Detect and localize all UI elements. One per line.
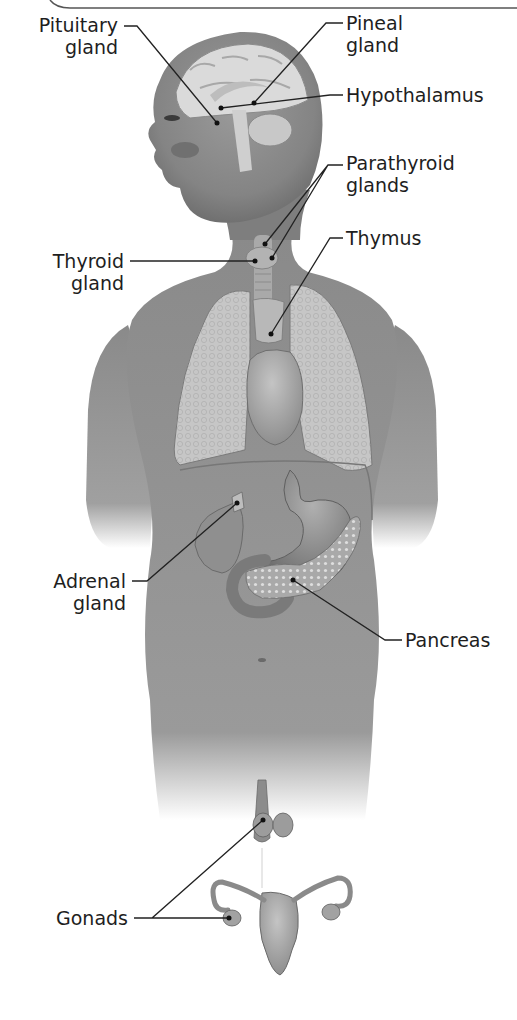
label-line: Hypothalamus	[346, 84, 484, 106]
testis-left	[253, 813, 273, 837]
cerebellum	[248, 114, 292, 146]
frame-border	[50, 0, 517, 8]
label-pituitary-gland: Pituitary gland	[38, 14, 118, 58]
label-line: gland	[40, 272, 124, 294]
endocrine-system-figure: Pituitary gland Pineal gland Hypothalamu…	[0, 0, 517, 1020]
testis-right	[273, 813, 293, 837]
label-thymus: Thymus	[346, 227, 421, 249]
uterus-ovaries	[213, 878, 350, 975]
fallopian-tube-right	[294, 878, 350, 906]
label-adrenal-gland: Adrenal gland	[40, 570, 126, 614]
label-line: Pituitary	[38, 14, 118, 36]
label-line: Pancreas	[405, 629, 490, 651]
uterus	[260, 892, 299, 975]
label-gonads: Gonads	[40, 907, 128, 929]
label-pancreas: Pancreas	[405, 629, 490, 651]
label-line: gland	[346, 34, 403, 56]
label-line: Parathyroid	[346, 152, 455, 174]
label-line: glands	[346, 174, 455, 196]
label-line: Gonads	[40, 907, 128, 929]
fallopian-tube-left	[213, 882, 264, 910]
ovary-right	[322, 904, 340, 920]
label-line: Thyroid	[40, 250, 124, 272]
label-line: Pineal	[346, 12, 403, 34]
label-hypothalamus: Hypothalamus	[346, 84, 484, 106]
leader-gonads	[134, 820, 263, 918]
label-line: Thymus	[346, 227, 421, 249]
label-line: gland	[40, 592, 126, 614]
label-pineal-gland: Pineal gland	[346, 12, 403, 56]
label-parathyroid-glands: Parathyroid glands	[346, 152, 455, 196]
label-line: gland	[38, 36, 118, 58]
label-thyroid-gland: Thyroid gland	[40, 250, 124, 294]
label-line: Adrenal	[40, 570, 126, 592]
